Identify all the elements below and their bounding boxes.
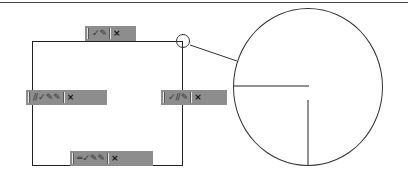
callout-lines	[0, 0, 413, 176]
